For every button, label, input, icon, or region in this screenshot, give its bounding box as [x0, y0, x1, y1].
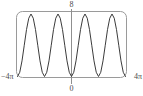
plot-canvas: [0, 0, 143, 96]
graph-figure: 8 0 −4π 4π: [0, 0, 143, 96]
x-min-label: −4π: [1, 73, 14, 81]
origin-label: 0: [0, 85, 143, 93]
y-max-label: 8: [0, 1, 143, 9]
x-max-label: 4π: [134, 73, 142, 81]
